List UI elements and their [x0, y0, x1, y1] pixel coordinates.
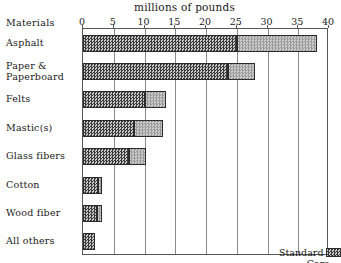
bar-row [83, 63, 329, 80]
bar-segment-compact [237, 35, 317, 52]
bar-row [83, 148, 329, 165]
bar-row [83, 205, 329, 222]
legend-swatch-standard [327, 249, 341, 256]
bar-row [83, 91, 329, 108]
bar-row [83, 177, 329, 194]
bar-segment-standard [83, 63, 228, 80]
category-label: All others [6, 235, 80, 246]
bar-chart: millions of pounds Materials 05101520253… [0, 0, 341, 263]
category-label: Wood fiber [6, 207, 80, 218]
bar-segment-compact [228, 63, 256, 80]
bar-segment-compact [145, 91, 167, 108]
legend-row: Standard Compact [279, 247, 341, 258]
legend: Standard Compact Cars [279, 247, 341, 263]
category-label: Paper &Paperboard [6, 60, 80, 82]
bar-segment-standard [83, 120, 134, 137]
bar-row [83, 35, 329, 52]
plot-area: Standard Compact Cars [82, 28, 328, 255]
y-axis-title: Materials [6, 17, 55, 28]
bar-segment-standard [83, 91, 145, 108]
bar-segment-standard [83, 177, 98, 194]
legend-label-standard: Standard [279, 247, 323, 258]
category-label: Mastic(s) [6, 122, 80, 133]
category-label: Felts [6, 93, 80, 104]
category-label: Cotton [6, 179, 80, 190]
bar-segment-standard [83, 35, 237, 52]
bar-segment-compact [129, 148, 146, 165]
bar-segment-standard [83, 148, 129, 165]
bar-segment-standard [83, 205, 97, 222]
legend-swatch [326, 248, 341, 257]
x-tick-mark [328, 25, 329, 28]
bar-segment-compact [97, 205, 103, 222]
category-label: Asphalt [6, 37, 80, 48]
category-label: Glass fibers [6, 150, 80, 161]
bar-segment-standard [83, 233, 95, 250]
bar-segment-compact [98, 177, 102, 194]
bar-row [83, 120, 329, 137]
bar-segment-compact [134, 120, 163, 137]
chart-title: millions of pounds [0, 1, 341, 13]
legend-caption: Cars [279, 258, 341, 263]
